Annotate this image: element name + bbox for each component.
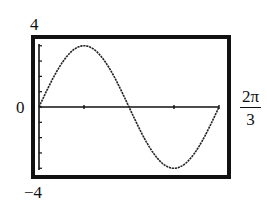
xmax-numerator: 2π (240, 88, 261, 108)
xmax-label: 2π 3 (240, 88, 261, 128)
ymin-label: −4 (24, 184, 42, 201)
ymax-label: 4 (30, 16, 39, 33)
xmax-denominator: 3 (240, 108, 261, 128)
graph-plot (0, 0, 267, 202)
origin-label: 0 (16, 99, 25, 116)
